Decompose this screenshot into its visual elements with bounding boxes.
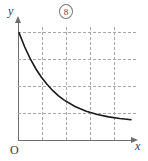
decay-curve-path [19,33,131,120]
origin-label: O [10,143,19,158]
y-axis-label: y [8,4,13,19]
curve-plot [0,0,148,161]
figure-container: 8 y x O [0,0,148,161]
x-axis-label: x [135,139,140,154]
